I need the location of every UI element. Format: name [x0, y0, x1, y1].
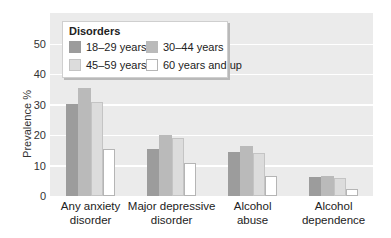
- bar: [334, 178, 346, 196]
- legend-swatch: [146, 41, 158, 53]
- bar: [103, 149, 115, 196]
- legend-swatch: [69, 59, 81, 71]
- bar: [184, 163, 196, 196]
- x-category-label: Alcoholabuse: [208, 199, 298, 227]
- bar: [253, 153, 265, 196]
- bar: [91, 102, 103, 196]
- bar: [240, 146, 252, 196]
- x-category-label: Alcoholdependence: [289, 199, 379, 227]
- legend: Disorders 18–29 years 30–44 years 45–59 …: [62, 21, 228, 78]
- x-category-label: Any anxietydisorder: [46, 199, 136, 227]
- y-axis-label: Prevalence %: [21, 87, 33, 161]
- bar: [159, 135, 171, 196]
- bar: [78, 88, 90, 196]
- bar: [147, 149, 159, 196]
- bar: [66, 104, 78, 196]
- bar: [309, 177, 321, 196]
- legend-swatch: [69, 41, 81, 53]
- bar: [346, 189, 358, 196]
- y-tick-label: 10: [28, 160, 46, 172]
- bar: [228, 152, 240, 196]
- bar: [265, 176, 277, 196]
- bar: [172, 138, 184, 196]
- y-tick-label: 0: [28, 190, 46, 202]
- legend-swatch: [146, 59, 158, 71]
- x-category-label: Major depressivedisorder: [127, 199, 217, 227]
- y-tick-label: 50: [28, 38, 46, 50]
- y-tick-label: 40: [28, 68, 46, 80]
- bar: [321, 176, 333, 196]
- legend-title: Disorders: [69, 25, 120, 37]
